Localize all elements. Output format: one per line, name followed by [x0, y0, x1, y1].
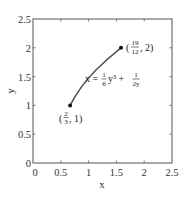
svg-text:, 1): , 1) [69, 113, 82, 125]
y-ticks [33, 48, 172, 134]
y-tick-1: 1 [26, 100, 31, 111]
svg-text:y³ +: y³ + [108, 73, 124, 84]
y-tick-labels: 0 0.5 1 1.5 2 2.5 [18, 14, 31, 169]
start-point-label: ( 2 3 , 1) [59, 110, 82, 127]
x-tick-1.5: 1.5 [110, 167, 123, 178]
y-tick-2.5: 2.5 [18, 14, 31, 25]
x-tick-0: 0 [32, 167, 37, 178]
svg-text:, 2): , 2) [140, 42, 153, 54]
y-tick-0.5: 0.5 [18, 129, 31, 140]
y-tick-1.5: 1.5 [18, 72, 31, 83]
start-point-marker [68, 103, 72, 107]
svg-text:(: ( [59, 113, 63, 125]
y-axis-label: y [4, 88, 16, 94]
x-tick-0.5: 0.5 [54, 167, 67, 178]
x-tick-labels: 0 0.5 1 1.5 2 2.5 [32, 167, 178, 178]
chart: 0 0.5 1 1.5 2 2.5 0 0.5 1 1.5 2 2.5 x y … [0, 0, 189, 198]
plot-frame [33, 19, 172, 163]
end-point-label: ( 19 12 , 2) [126, 39, 153, 56]
svg-text:19: 19 [132, 39, 140, 47]
x-axis-label: x [99, 178, 105, 190]
svg-text:x =: x = [85, 73, 99, 84]
svg-text:1: 1 [102, 71, 106, 79]
svg-text:(: ( [126, 42, 130, 54]
svg-text:2y: 2y [133, 80, 141, 88]
svg-text:12: 12 [132, 48, 140, 56]
x-tick-1: 1 [86, 167, 91, 178]
x-tick-2: 2 [142, 167, 147, 178]
y-tick-2: 2 [26, 43, 31, 54]
svg-text:6: 6 [102, 80, 106, 88]
y-tick-0: 0 [26, 158, 31, 169]
svg-text:1: 1 [134, 71, 138, 79]
x-tick-2.5: 2.5 [165, 167, 178, 178]
svg-text:2: 2 [64, 110, 68, 118]
svg-text:3: 3 [64, 118, 68, 126]
equation-label: x = 1 6 y³ + 1 2y [85, 71, 140, 88]
end-point-marker [119, 46, 123, 50]
